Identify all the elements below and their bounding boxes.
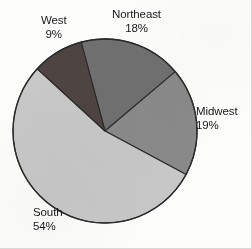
pie-slice-group <box>13 39 197 223</box>
slice-label-south-name: South <box>33 206 63 220</box>
slice-label-west-value: 9% <box>41 28 67 42</box>
slice-label-midwest: Midwest 19% <box>196 105 237 132</box>
slice-label-south: South 54% <box>33 206 63 233</box>
slice-label-midwest-value: 19% <box>196 119 237 133</box>
slice-label-northeast-name: Northeast <box>112 8 161 22</box>
slice-label-west: West 9% <box>41 14 67 41</box>
slice-label-northeast: Northeast 18% <box>112 8 161 35</box>
slice-label-northeast-value: 18% <box>112 22 161 36</box>
slice-label-midwest-name: Midwest <box>196 105 237 119</box>
slice-label-west-name: West <box>41 14 67 28</box>
pie-chart-figure: Northeast 18% West 9% Midwest 19% South … <box>0 0 252 249</box>
slice-label-south-value: 54% <box>33 220 63 234</box>
